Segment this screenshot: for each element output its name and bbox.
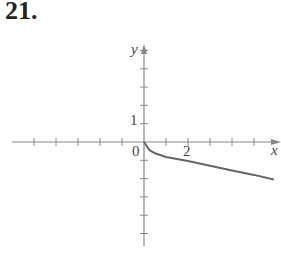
x-axis-label: x (270, 142, 278, 158)
y-axis-label: y (129, 41, 138, 57)
x-tick-label-2: 2 (183, 143, 191, 159)
curve (144, 142, 274, 180)
chart: y x 0 2 1 (0, 0, 281, 253)
origin-label: 0 (132, 143, 140, 159)
y-tick-label-1: 1 (130, 112, 138, 128)
